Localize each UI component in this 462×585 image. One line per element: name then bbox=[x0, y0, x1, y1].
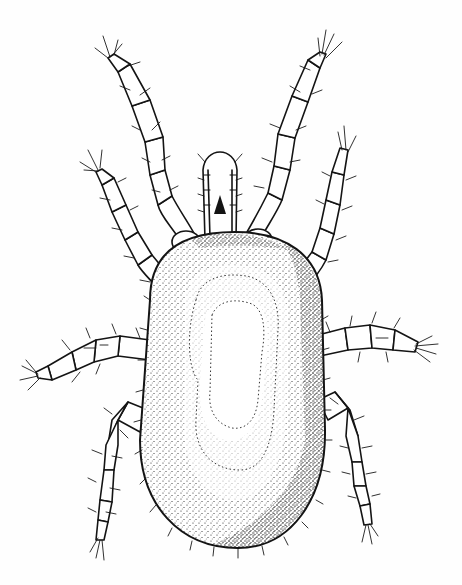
gnathosoma bbox=[198, 152, 242, 240]
leg-III-right bbox=[318, 312, 438, 362]
mite-illustration: mite bbox=[0, 0, 462, 585]
leg-III-left bbox=[20, 324, 150, 390]
idiosoma bbox=[130, 225, 340, 558]
mite-drawing bbox=[0, 0, 462, 585]
leg-I-left bbox=[95, 36, 195, 240]
leg-IV-right bbox=[318, 392, 380, 544]
leg-IV-left bbox=[88, 402, 148, 560]
